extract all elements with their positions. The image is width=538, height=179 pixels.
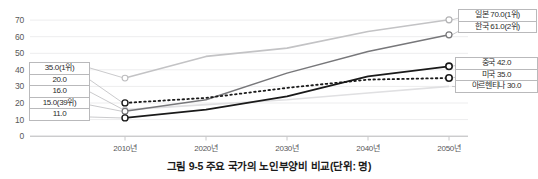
right-annotation-group-bottom: 중국 42.0 미국 35.0 아르헨티나 30.0 [455,57,538,93]
marker-japan-2050 [446,17,452,23]
marker-japan-2010 [122,75,128,81]
marker-china-2010 [122,115,128,121]
y-tick-70: 70 [2,15,24,25]
x-tick-2030: 2030년 [264,142,310,153]
x-tick-2040: 2040년 [345,142,391,153]
right-label-korea: 한국 61.0(2위) [458,21,537,34]
x-axis-ticks [125,136,449,140]
left-leader-lines [90,68,124,118]
marker-usa-2010 [122,100,128,106]
x-tick-2020: 2020년 [183,142,229,153]
figure-caption: 그림 9-5 주요 국가의 노인부양비 비교(단위: 명) [0,158,538,173]
x-tick-2010: 2010년 [102,142,148,153]
y-tick-50: 50 [2,48,24,58]
marker-korea-2010 [122,108,128,114]
right-annotation-group-top: 일본 70.0(1위) 한국 61.0(2위) [458,9,537,33]
y-tick-60: 60 [2,32,24,42]
series-line-china [125,66,449,118]
marker-korea-2050 [446,32,452,38]
x-tick-2050: 2050년 [426,142,472,153]
y-tick-10: 10 [2,115,24,125]
left-label-china-2010: 11.0 [29,108,90,121]
y-tick-40: 40 [2,65,24,75]
left-annotation-group: 35.0(1위) 20.0 16.0 15.0(39위) 11.0 [29,62,90,121]
right-label-argentina: 아르헨티나 30.0 [455,80,538,93]
series-line-argentina [125,86,449,109]
y-tick-20: 20 [2,98,24,108]
marker-usa-2050 [446,75,452,81]
y-tick-0: 0 [2,131,24,141]
chart-container: 70 60 50 40 30 20 10 0 2010년 2020년 2030년… [0,0,538,179]
marker-china-2050 [446,63,452,69]
y-tick-30: 30 [2,81,24,91]
